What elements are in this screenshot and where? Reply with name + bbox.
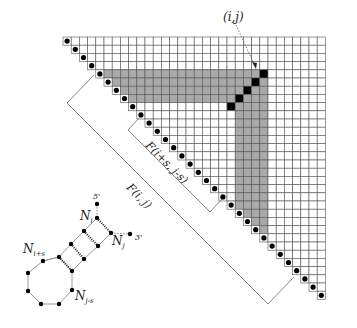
- matrix-cell: [260, 103, 268, 111]
- diagonal-dot: [220, 194, 225, 199]
- matrix-cell: [145, 103, 153, 111]
- matrix-cell: [227, 78, 235, 86]
- matrix-cell: [309, 242, 317, 250]
- diagonal-dot: [171, 145, 176, 150]
- matrix-cell: [129, 37, 137, 45]
- matrix-cell: [219, 70, 227, 78]
- matrix-cell: [301, 111, 309, 119]
- matrix-cell: [194, 144, 202, 152]
- matrix-cell: [309, 185, 317, 193]
- matrix-cell: [252, 209, 260, 217]
- matrix-cell: [137, 86, 145, 94]
- matrix-cell: [145, 70, 153, 78]
- matrix-cell: [260, 62, 268, 70]
- matrix-cell: [293, 176, 301, 184]
- matrix-cell: [276, 193, 284, 201]
- matrix-cell: [153, 78, 161, 86]
- matrix-cell: [178, 37, 186, 45]
- matrix-cell: [317, 119, 325, 127]
- matrix-cell: [268, 111, 276, 119]
- matrix-cell: [284, 193, 292, 201]
- matrix-cell: [284, 62, 292, 70]
- matrix-cell: [88, 37, 96, 45]
- matrix-cell: [219, 86, 227, 94]
- matrix-cell: [317, 37, 325, 45]
- matrix-cell: [227, 168, 235, 176]
- matrix-cell: [96, 37, 104, 45]
- diagonal-dot: [229, 203, 234, 208]
- diagonal-dot: [253, 227, 258, 232]
- matrix-cell: [186, 152, 194, 160]
- matrix-cell: [317, 176, 325, 184]
- matrix-cell: [268, 103, 276, 111]
- matrix-cell: [227, 119, 235, 127]
- matrix-cell: [137, 45, 145, 53]
- matrix-cell: [276, 94, 284, 102]
- matrix-cell: [194, 86, 202, 94]
- matrix-cell: [252, 152, 260, 160]
- matrix-cell: [301, 185, 309, 193]
- matrix-cell: [301, 176, 309, 184]
- matrix-cell: [120, 62, 128, 70]
- matrix-cell: [309, 62, 317, 70]
- matrix-cell: [293, 234, 301, 242]
- matrix-cell: [202, 135, 210, 143]
- matrix-cell: [268, 234, 276, 242]
- matrix-cell: [219, 78, 227, 86]
- matrix-cell: [309, 226, 317, 234]
- matrix-cell: [293, 86, 301, 94]
- matrix-cell: [211, 78, 219, 86]
- matrix-cell: [276, 185, 284, 193]
- diagonal-dot: [155, 129, 160, 134]
- matrix-cell: [309, 103, 317, 111]
- matrix-cell: [194, 160, 202, 168]
- matrix-cell: [137, 53, 145, 61]
- matrix-cell: [235, 94, 243, 102]
- matrix-cell: [309, 86, 317, 94]
- matrix-cell: [227, 37, 235, 45]
- matrix-cell: [211, 135, 219, 143]
- matrix-cell: [211, 37, 219, 45]
- matrix-cell: [317, 217, 325, 225]
- matrix-cell: [194, 127, 202, 135]
- matrix-cell: [235, 176, 243, 184]
- n-i-plus-s-label: Ni+s: [22, 242, 46, 258]
- matrix-cell: [202, 168, 210, 176]
- matrix-cell: [243, 201, 251, 209]
- matrix-cell: [252, 168, 260, 176]
- matrix-cell: [88, 53, 96, 61]
- matrix-cell: [268, 78, 276, 86]
- matrix-cell: [260, 193, 268, 201]
- matrix-cell: [284, 201, 292, 209]
- matrix-cell: [301, 37, 309, 45]
- matrix-cell: [317, 127, 325, 135]
- matrix-cell: [211, 45, 219, 53]
- dp-matrix-grid: [63, 37, 325, 299]
- matrix-cell: [186, 37, 194, 45]
- matrix-cell: [153, 86, 161, 94]
- matrix-cell: [252, 127, 260, 135]
- matrix-cell: [178, 86, 186, 94]
- matrix-cell: [96, 45, 104, 53]
- matrix-cell: [309, 37, 317, 45]
- matrix-cell: [276, 119, 284, 127]
- matrix-cell: [243, 127, 251, 135]
- matrix-cell: [301, 242, 309, 250]
- matrix-cell: [260, 119, 268, 127]
- matrix-cell: [178, 127, 186, 135]
- matrix-cell: [284, 226, 292, 234]
- matrix-cell: [161, 119, 169, 127]
- matrix-cell: [178, 111, 186, 119]
- matrix-cell: [284, 103, 292, 111]
- diagonal-dot: [311, 285, 316, 290]
- matrix-cell: [301, 193, 309, 201]
- matrix-cell: [317, 193, 325, 201]
- matrix-cell: [317, 168, 325, 176]
- matrix-cell: [227, 103, 235, 111]
- matrix-cell: [194, 53, 202, 61]
- matrix-cell: [284, 250, 292, 258]
- matrix-cell: [293, 127, 301, 135]
- matrix-cell: [301, 226, 309, 234]
- matrix-cell: [243, 78, 251, 86]
- matrix-cell: [301, 70, 309, 78]
